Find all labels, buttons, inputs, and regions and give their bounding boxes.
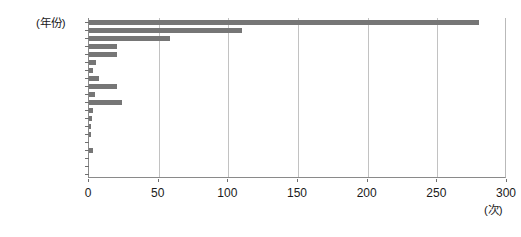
y-axis-tick — [85, 30, 89, 31]
bar-row — [89, 28, 507, 33]
x-axis-label: 200 — [357, 186, 377, 200]
bar-row — [89, 172, 507, 177]
bar-row — [89, 44, 507, 49]
x-axis-tick — [506, 179, 507, 182]
bar — [89, 100, 122, 105]
y-axis-tick — [85, 46, 89, 47]
bar-row — [89, 76, 507, 81]
bar-row — [89, 20, 507, 25]
bar — [89, 68, 93, 73]
x-axis: 050100150200250300 — [88, 179, 506, 209]
y-axis-tick — [85, 38, 89, 39]
bar — [89, 124, 91, 129]
bar — [89, 132, 91, 137]
bar — [89, 92, 95, 97]
bar-row — [89, 140, 507, 145]
x-axis-tick — [88, 179, 89, 182]
bar — [89, 108, 93, 113]
y-axis-tick — [85, 118, 89, 119]
x-axis-label: 150 — [287, 186, 307, 200]
bar-row — [89, 164, 507, 169]
bar-row — [89, 100, 507, 105]
y-axis-tick — [85, 102, 89, 103]
bar-row — [89, 116, 507, 121]
bar — [89, 76, 99, 81]
y-axis-tick — [85, 110, 89, 111]
bar — [89, 20, 479, 25]
x-axis-label: 50 — [151, 186, 164, 200]
plot-area — [88, 18, 506, 178]
x-axis-tick — [227, 179, 228, 182]
y-axis-tick — [85, 22, 89, 23]
x-axis-tick — [436, 179, 437, 182]
bar — [89, 148, 93, 153]
bar-chart: (年份) 1700—18001400—15001100—1200800—9005… — [0, 0, 521, 237]
bar — [89, 36, 170, 41]
bar — [89, 52, 117, 57]
x-axis-tick — [367, 179, 368, 182]
bar — [89, 28, 242, 33]
bar — [89, 116, 92, 121]
bar-row — [89, 156, 507, 161]
x-axis-tick — [158, 179, 159, 182]
bar-row — [89, 132, 507, 137]
x-axis-tick — [297, 179, 298, 182]
bar — [89, 44, 117, 49]
y-axis-tick — [85, 54, 89, 55]
bar-row — [89, 108, 507, 113]
bar-row — [89, 124, 507, 129]
bar — [89, 84, 117, 89]
y-axis-tick — [85, 86, 89, 87]
bar-row — [89, 68, 507, 73]
bar — [89, 60, 96, 65]
x-axis-label: 100 — [217, 186, 237, 200]
x-axis-label: 300 — [496, 186, 516, 200]
y-axis-tick — [85, 94, 89, 95]
bar-row — [89, 52, 507, 57]
y-axis-tick — [85, 150, 89, 151]
bar-row — [89, 36, 507, 41]
bar-row — [89, 60, 507, 65]
x-axis-label: 0 — [85, 186, 92, 200]
y-axis-tick — [85, 126, 89, 127]
bar-row — [89, 148, 507, 153]
y-axis-tick — [85, 166, 89, 167]
y-axis-tick — [85, 174, 89, 175]
y-axis-tick — [85, 62, 89, 63]
y-axis-unit-label: (年份) — [36, 14, 66, 30]
bar-row — [89, 92, 507, 97]
bar-row — [89, 84, 507, 89]
bar-series — [89, 18, 505, 177]
y-axis-tick — [85, 70, 89, 71]
y-axis-tick — [85, 134, 89, 135]
y-axis-tick — [85, 78, 89, 79]
x-axis-unit-label: (次) — [484, 201, 503, 217]
x-axis-label: 250 — [426, 186, 446, 200]
y-axis-tick — [85, 142, 89, 143]
y-axis-tick — [85, 158, 89, 159]
